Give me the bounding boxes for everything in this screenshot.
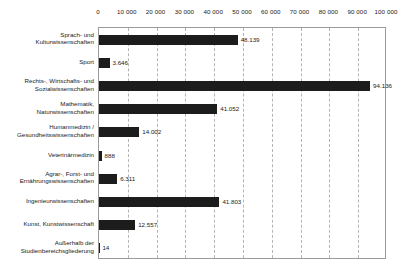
bar-row: 14 [99, 237, 385, 260]
x-tick-label: 80 000 [319, 8, 339, 16]
category-label-line: Ingenieurwissenschaften [0, 197, 94, 205]
bar-series: 48.1393.64694.13641.05214.0028886.31141.… [99, 28, 385, 258]
x-tick-label: 40 000 [203, 8, 223, 16]
x-tick-label: 20 000 [146, 8, 166, 16]
category-label-line: Humanmedizin / [0, 124, 94, 132]
category-label-line: Mathematik, [0, 101, 94, 109]
bar-value-label: 888 [105, 152, 115, 160]
category-label: Sport [0, 58, 96, 66]
category-label: Außerhalb derStudienbereichsgliederung [0, 240, 96, 255]
bar-row: 41.052 [99, 98, 385, 121]
category-label-line: Rechts-, Wirtschafts- und [0, 77, 94, 85]
bar-value-label: 48.139 [241, 36, 260, 44]
bar: 41.052 [99, 104, 217, 114]
category-label-line: Kulturwissenschaften [0, 39, 94, 47]
category-label-line: Sprach- und [0, 31, 94, 39]
category-label-line: Veterinärmedizin [0, 151, 94, 159]
bar: 12.557 [99, 220, 135, 230]
y-axis-category-labels: Sprach- undKulturwissenschaftenSportRech… [0, 27, 96, 259]
bar: 888 [99, 151, 102, 161]
x-tick-label: 50 000 [232, 8, 252, 16]
category-label-line: Studienbereichsgliederung [0, 247, 94, 255]
category-label-line: Sport [0, 58, 94, 66]
bar: 3.646 [99, 58, 110, 68]
bar-value-label: 3.646 [113, 59, 128, 67]
category-label-line: Ernährungswissenschaften [0, 178, 94, 186]
bar-chart: 010 00020 00030 00040 00050 00060 00070 … [0, 0, 406, 270]
x-tick-label: 70 000 [290, 8, 310, 16]
x-tick-label: 60 000 [261, 8, 281, 16]
bar-row: 94.136 [99, 74, 385, 97]
bar-row: 48.139 [99, 28, 385, 51]
category-label-line: Kunst, Kunstwissenschaft [0, 220, 94, 228]
bar-value-label: 41.803 [222, 198, 241, 206]
category-label: Agrar-, Forst- undErnährungswissenschaft… [0, 170, 96, 185]
category-label: Ingenieurwissenschaften [0, 197, 96, 205]
bar-value-label: 14 [102, 244, 109, 252]
bar-row: 41.803 [99, 190, 385, 213]
bar-value-label: 94.136 [373, 82, 392, 90]
bar-row: 14.002 [99, 121, 385, 144]
bar-value-label: 14.002 [142, 128, 161, 136]
bar: 14.002 [99, 127, 139, 137]
bar-value-label: 12.557 [138, 221, 157, 229]
category-label: Rechts-, Wirtschafts- undSozialwissensch… [0, 77, 96, 92]
bar-value-label: 6.311 [120, 175, 135, 183]
category-label-line: Gesundheitswissenschaften [0, 131, 94, 139]
x-tick-label: 10 000 [117, 8, 137, 16]
bar-row: 12.557 [99, 214, 385, 237]
bar-row: 3.646 [99, 51, 385, 74]
x-tick-label: 90 000 [347, 8, 367, 16]
category-label-line: Naturwissenschaften [0, 108, 94, 116]
category-label-line: Agrar-, Forst- und [0, 170, 94, 178]
x-tick-label: 30 000 [175, 8, 195, 16]
x-tick-label: 100 000 [374, 8, 397, 16]
bar: 48.139 [99, 35, 238, 45]
category-label: Humanmedizin /Gesundheitswissenschaften [0, 124, 96, 139]
category-label-line: Außerhalb der [0, 240, 94, 248]
bar: 94.136 [99, 81, 370, 91]
bar-row: 6.311 [99, 167, 385, 190]
plot-area: 48.1393.64694.13641.05214.0028886.31141.… [98, 27, 386, 259]
bar-row: 888 [99, 144, 385, 167]
x-axis-tick-labels: 010 00020 00030 00040 00050 00060 00070 … [0, 8, 406, 22]
category-label: Sprach- undKulturwissenschaften [0, 31, 96, 46]
category-label: Mathematik,Naturwissenschaften [0, 101, 96, 116]
category-label: Kunst, Kunstwissenschaft [0, 220, 96, 228]
x-tick-label: 0 [96, 8, 100, 16]
bar-value-label: 41.052 [220, 105, 239, 113]
category-label: Veterinärmedizin [0, 151, 96, 159]
bar: 6.311 [99, 174, 117, 184]
bar: 41.803 [99, 197, 219, 207]
category-label-line: Sozialwissenschaften [0, 85, 94, 93]
